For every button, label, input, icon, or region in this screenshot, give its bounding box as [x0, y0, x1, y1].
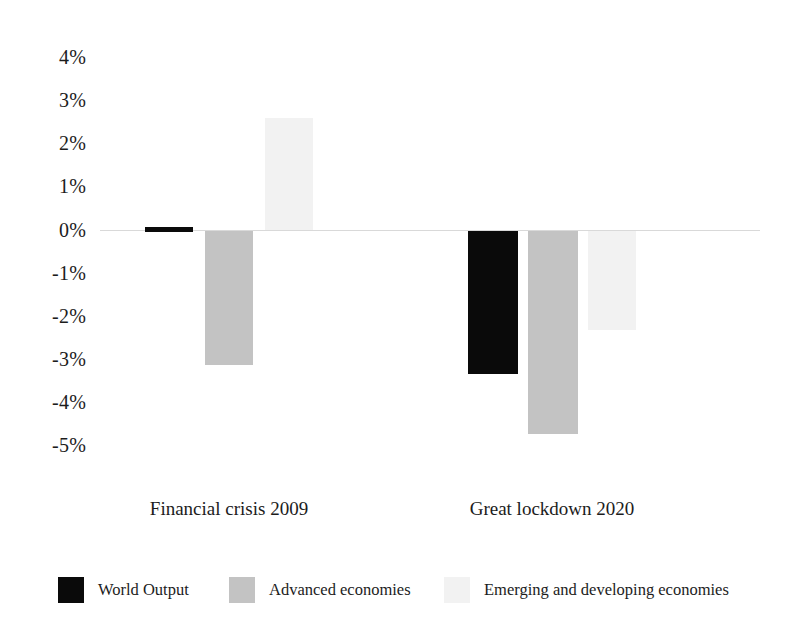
y-axis-tick-label: -2%	[0, 306, 86, 326]
y-axis-tick-label: 3%	[0, 90, 86, 110]
legend-item-advanced-economies[interactable]: Advanced economies	[229, 575, 411, 605]
y-axis-tick-label: -1%	[0, 263, 86, 283]
y-axis-tick-label: -3%	[0, 349, 86, 369]
plot-area: 4% 3% 2% 1% 0% -1% -2% -3% -4% -5% Finan…	[0, 0, 791, 470]
legend-swatch-icon	[229, 577, 255, 603]
legend-item-emerging-developing-economies[interactable]: Emerging and developing economies	[444, 575, 729, 605]
legend-item-label: Advanced economies	[269, 581, 411, 599]
category-label-great-lockdown-2020: Great lockdown 2020	[422, 498, 682, 520]
zero-baseline	[100, 230, 760, 231]
legend-item-label: Emerging and developing economies	[484, 581, 729, 599]
category-label-financial-crisis-2009: Financial crisis 2009	[99, 498, 359, 520]
bar-world-output-2009	[145, 227, 193, 232]
bar-chart: 4% 3% 2% 1% 0% -1% -2% -3% -4% -5% Finan…	[0, 0, 791, 644]
y-axis-tick-label: -4%	[0, 392, 86, 412]
legend-item-label: World Output	[98, 581, 189, 599]
bar-emerging-developing-2009	[265, 118, 313, 230]
y-axis-tick-label: 4%	[0, 47, 86, 67]
legend-swatch-icon	[58, 577, 84, 603]
bar-advanced-economies-2020	[528, 231, 578, 434]
bar-emerging-developing-2020	[588, 231, 636, 330]
legend-swatch-icon	[444, 577, 470, 603]
bar-advanced-economies-2009	[205, 231, 253, 365]
bar-world-output-2020	[468, 231, 518, 374]
y-axis-tick-label: 0%	[0, 220, 86, 240]
legend-item-world-output[interactable]: World Output	[58, 575, 189, 605]
y-axis-tick-label: 2%	[0, 133, 86, 153]
y-axis-tick-label: 1%	[0, 176, 86, 196]
y-axis-tick-label: -5%	[0, 435, 86, 455]
chart-legend: World Output Advanced economies Emerging…	[0, 575, 791, 615]
